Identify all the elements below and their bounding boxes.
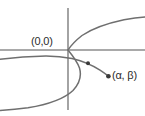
alpha-beta-label: (α, β) [112,70,137,81]
plot-canvas [0,0,145,116]
alpha-beta-dot [106,74,111,79]
parabola-figure: (0,0) (α, β) [0,0,145,116]
midpoint-dot [86,61,90,65]
parabola-upper-branch [68,17,145,50]
origin-label: (0,0) [31,36,53,47]
secant-curve [0,56,108,76]
